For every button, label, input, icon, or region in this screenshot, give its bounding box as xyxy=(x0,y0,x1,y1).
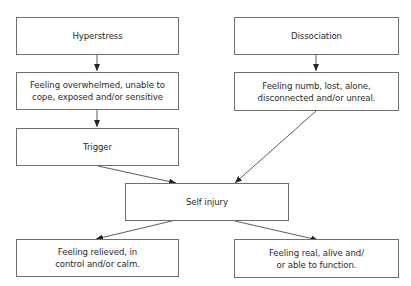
node-numb: Feeling numb, lost, alone, disconnected … xyxy=(234,72,399,111)
node-trigger: Trigger xyxy=(16,128,179,166)
node-label-line2: cope, exposed and/or sensitive xyxy=(30,91,165,103)
arrow-trigger-to-self-injury xyxy=(98,166,176,183)
node-relieved: Feeling relieved, in control and/or calm… xyxy=(16,239,179,277)
arrow-self-injury-to-real xyxy=(235,221,318,240)
node-label-line1: Feeling relieved, in xyxy=(55,246,140,258)
node-label-line1: Feeling real, alive and/ xyxy=(269,247,364,259)
node-label: Trigger xyxy=(83,141,112,153)
node-label: Dissociation xyxy=(291,30,342,42)
node-label-line1: Feeling numb, lost, alone, xyxy=(258,80,376,92)
arrow-self-injury-to-relieved xyxy=(96,220,176,239)
node-real: Feeling real, alive and/ or able to func… xyxy=(234,239,399,278)
node-hyperstress: Hyperstress xyxy=(16,17,179,55)
node-label-line1: Feeling overwhelmed, unable to xyxy=(30,79,165,91)
node-overwhelmed: Feeling overwhelmed, unable to cope, exp… xyxy=(16,72,179,110)
node-label-line2: disconnected and/or unreal. xyxy=(258,92,376,104)
node-label-line2: control and/or calm. xyxy=(55,258,140,270)
node-self-injury: Self injury xyxy=(125,183,289,221)
node-dissociation: Dissociation xyxy=(234,17,399,55)
arrow-numb-to-self-injury xyxy=(235,111,316,183)
node-label: Self injury xyxy=(186,196,228,208)
node-label-line2: or able to function. xyxy=(269,259,364,271)
node-label: Hyperstress xyxy=(72,30,122,42)
